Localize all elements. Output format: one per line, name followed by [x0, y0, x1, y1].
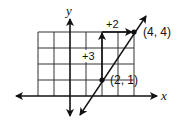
run-arrow: +2: [102, 18, 132, 32]
point-label-4-4: (4, 4): [143, 25, 171, 39]
y-axis-label: y: [64, 3, 72, 18]
run-label: +2: [106, 18, 119, 30]
rise-label: +3: [82, 50, 95, 62]
point-4-4: (4, 4): [131, 25, 171, 39]
x-axis: x: [16, 88, 167, 103]
coordinate-graph: x y +3 +2 (2, 1) (4, 4): [0, 0, 186, 123]
y-axis: y: [64, 3, 72, 116]
x-axis-label: x: [160, 88, 167, 103]
rise-arrow: +3: [80, 33, 102, 80]
point-label-2-1: (2, 1): [110, 73, 138, 87]
